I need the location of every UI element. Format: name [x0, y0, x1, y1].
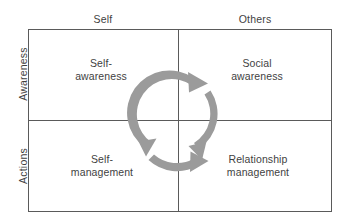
arrowhead-segment1-top-icon — [188, 72, 208, 93]
circular-cycle-arrows-icon — [118, 61, 234, 177]
arrow-right-down-icon — [194, 91, 218, 150]
arrow-top-left-to-top-right-icon — [127, 70, 194, 147]
column-header-others: Others — [178, 13, 332, 25]
column-header-self: Self — [28, 13, 178, 25]
emotional-intelligence-diagram: Self Others Awareness Actions Self- awar… — [0, 0, 343, 222]
arrowhead-segment1-icon — [139, 139, 157, 157]
